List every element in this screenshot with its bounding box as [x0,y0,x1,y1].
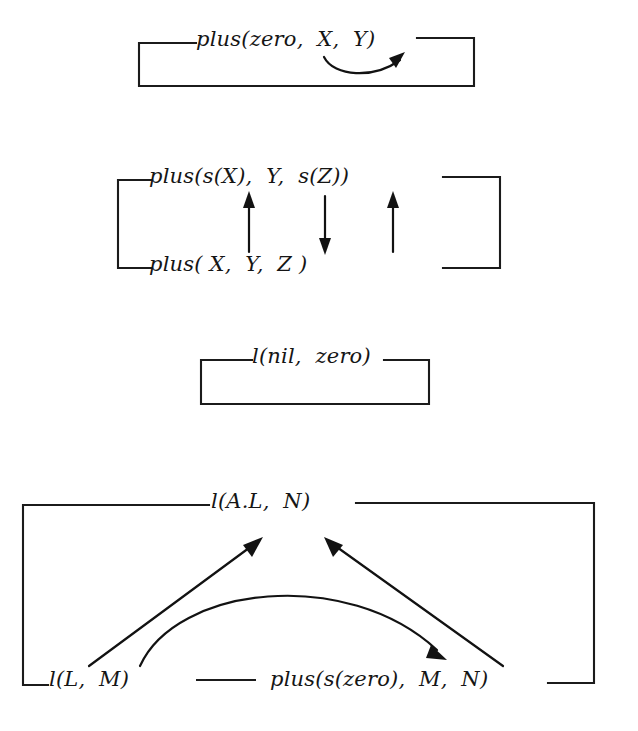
clause-1-curved-arrow-x-to-y [324,52,405,73]
clause-2-arrow-down-arg2 [319,196,331,255]
clause-4-arrow-N-to-N [324,537,503,666]
clause-dataflow-figure: plus(zero, X, Y) plus(s(X), Y, s(Z)) plu… [0,0,638,731]
clause-4-curved-arrow-M-to-M [140,596,447,666]
clause-4-body-goal-2-term: plus(s(zero), M, N) [270,669,488,690]
clause-2-arrow-up-arg1 [243,191,255,252]
clause-2-arrow-up-arg3 [387,191,399,252]
clause-4-body-goal-1-term: l(L, M) [49,669,129,690]
clause-2-head-term: plus(s(X), Y, s(Z)) [149,166,349,187]
clause-2-body-term: plus( X, Y, Z ) [149,254,307,275]
clause-4-bracket [23,503,594,685]
clause-3-head-term: l(nil, zero) [252,346,371,367]
clause-4-head-term: l(A.L, N) [211,491,310,512]
clause-1-head-term: plus(zero, X, Y) [196,29,376,50]
